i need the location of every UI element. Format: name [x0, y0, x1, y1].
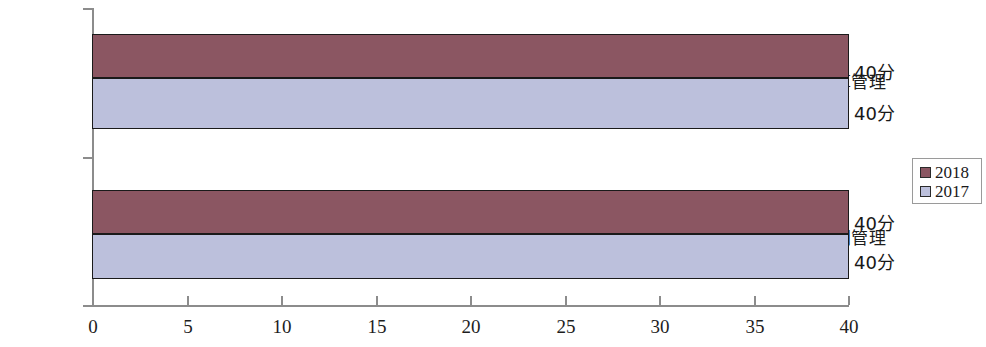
x-tick-label-10: 10 [273, 316, 292, 338]
bar-chart: 0 5 10 15 20 25 30 35 40 预算管理 合同管理 40分 4… [0, 0, 986, 347]
x-axis-tick-0 [92, 296, 94, 305]
legend-swatch-2017-icon [920, 186, 931, 197]
x-tick-label-25: 25 [557, 316, 576, 338]
x-axis-tick-20 [470, 296, 472, 305]
legend-item-2017[interactable]: 2017 [920, 182, 981, 201]
y-axis-tick-bottom [83, 305, 92, 307]
data-label-contract-management-2018: 40分 [854, 209, 895, 235]
bar-contract-management-2018[interactable] [92, 190, 849, 234]
x-axis-tick-35 [754, 296, 756, 305]
x-axis-tick-25 [565, 296, 567, 305]
bar-contract-management-2017[interactable] [92, 234, 849, 279]
chart-legend: 2018 2017 [912, 158, 982, 204]
y-axis-tick-middle [83, 157, 92, 159]
x-tick-label-30: 30 [651, 316, 670, 338]
legend-swatch-2018-icon [920, 167, 931, 178]
x-tick-label-35: 35 [746, 316, 765, 338]
bar-budget-management-2017[interactable] [92, 78, 849, 129]
x-axis-line [92, 305, 849, 307]
legend-label-2018: 2018 [935, 164, 969, 181]
x-axis-tick-40 [848, 296, 850, 305]
x-tick-label-20: 20 [462, 316, 481, 338]
bar-budget-management-2018[interactable] [92, 34, 849, 78]
x-tick-label-40: 40 [840, 316, 859, 338]
data-label-budget-management-2018: 40分 [854, 58, 895, 84]
data-label-contract-management-2017: 40分 [854, 248, 895, 274]
x-tick-label-5: 5 [183, 316, 193, 338]
y-axis-tick-top [83, 8, 92, 10]
legend-label-2017: 2017 [935, 183, 969, 200]
x-axis-tick-15 [376, 296, 378, 305]
data-label-budget-management-2017: 40分 [854, 99, 895, 125]
x-tick-label-0: 0 [88, 316, 98, 338]
x-tick-label-15: 15 [368, 316, 387, 338]
legend-item-2018[interactable]: 2018 [920, 163, 981, 182]
x-axis-tick-10 [281, 296, 283, 305]
x-axis-tick-5 [187, 296, 189, 305]
x-axis-tick-30 [659, 296, 661, 305]
